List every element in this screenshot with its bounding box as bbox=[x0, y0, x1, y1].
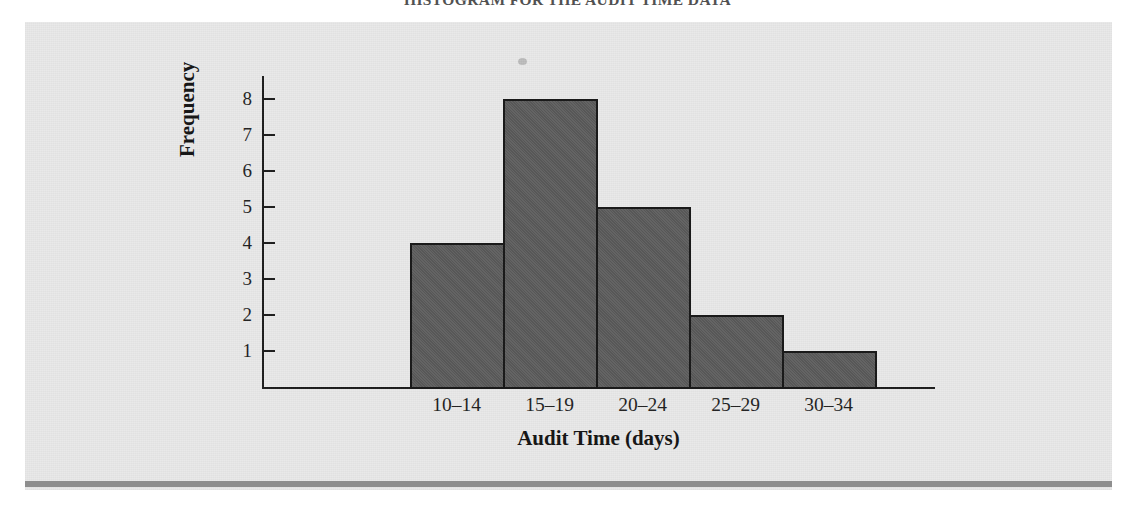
y-axis-tick bbox=[264, 170, 275, 172]
histogram-bar bbox=[410, 243, 505, 389]
panel-rule-bottom bbox=[25, 481, 1112, 487]
x-axis-title: Audit Time (days) bbox=[262, 426, 935, 451]
y-axis-tick bbox=[264, 206, 275, 208]
y-axis-tick bbox=[264, 278, 275, 280]
figure-caption-text: HISTOGRAM FOR THE AUDIT TIME DATA bbox=[0, 0, 1135, 9]
scan-artifact-speck bbox=[518, 58, 527, 65]
histogram-bar bbox=[503, 99, 598, 389]
y-axis-tick-label: 6 bbox=[212, 161, 252, 180]
histogram-bar bbox=[596, 207, 691, 389]
y-axis-tick-label: 8 bbox=[212, 89, 252, 108]
y-axis-tick bbox=[264, 134, 275, 136]
y-axis-tick bbox=[264, 98, 275, 100]
y-axis-tick-label: 2 bbox=[212, 305, 252, 324]
histogram-bar bbox=[689, 315, 784, 389]
histogram-bar bbox=[782, 351, 877, 389]
y-axis-line bbox=[262, 76, 264, 389]
y-axis-tick-label: 4 bbox=[212, 233, 252, 252]
y-axis-title: Frequency bbox=[175, 62, 200, 157]
x-axis-tick-label: 30–34 bbox=[769, 394, 889, 416]
figure-caption: HISTOGRAM FOR THE AUDIT TIME DATA bbox=[0, 0, 1135, 14]
histogram-plot-area: 87654321 10–1415–1920–2425–2930–34 Audit… bbox=[25, 22, 1112, 490]
y-axis-tick-label: 1 bbox=[212, 341, 252, 360]
y-axis-tick-label: 3 bbox=[212, 269, 252, 288]
y-axis-tick bbox=[264, 242, 275, 244]
figure-panel: 87654321 10–1415–1920–2425–2930–34 Audit… bbox=[25, 22, 1112, 490]
y-axis-tick-label: 7 bbox=[212, 125, 252, 144]
y-axis-tick bbox=[264, 350, 275, 352]
y-axis-tick-label: 5 bbox=[212, 197, 252, 216]
y-axis-tick bbox=[264, 314, 275, 316]
